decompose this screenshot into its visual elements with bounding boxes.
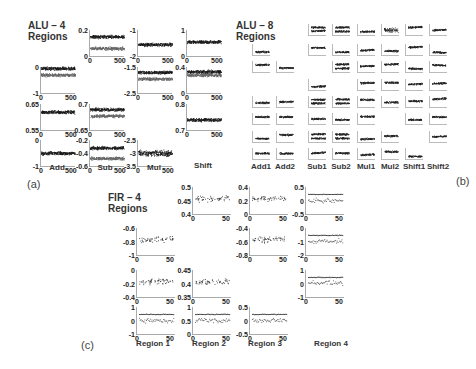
axis-tick-label: 0.35: [177, 294, 191, 301]
scatter-subplot: [357, 96, 375, 108]
axis-tick-label: -2.5: [124, 90, 136, 97]
column-label: Shift1: [401, 162, 427, 171]
scatter-subplot: [252, 96, 270, 108]
panel-b-label: (b): [456, 175, 469, 187]
scatter-subplot: [429, 61, 447, 73]
scatter-subplot: [305, 270, 344, 298]
scatter-subplot: [332, 24, 350, 36]
axis-tick-label: -0.5: [292, 211, 304, 218]
axis-tick-label: 1: [181, 27, 185, 34]
scatter-subplot: [308, 113, 326, 125]
axis-tick-label: 0.65: [74, 127, 88, 134]
axis-tick-label: -0.2: [76, 137, 88, 144]
scatter-subplot: [308, 96, 326, 108]
axis-tick-label: 0.5: [181, 184, 191, 191]
scatter-subplot: [276, 131, 294, 143]
axis-tick-label: 50: [335, 215, 343, 222]
column-label: Mul2: [377, 162, 403, 171]
column-label: Region 4: [306, 339, 356, 348]
scatter-subplot: [192, 187, 231, 215]
axis-tick-label: 0.4: [175, 64, 185, 71]
axis-tick-label: 0: [244, 318, 248, 325]
column-label: Add: [40, 163, 74, 172]
scatter-subplot: [405, 79, 423, 91]
axis-tick-label: 0: [88, 57, 92, 64]
axis-tick-label: 50: [166, 256, 174, 263]
axis-tick-label: 0: [185, 131, 189, 138]
axis-tick-label: 0.7: [175, 127, 185, 134]
axis-tick-label: 500: [211, 94, 223, 101]
scatter-subplot: [136, 270, 175, 298]
panel-c-title: FIR – 4 Regions: [108, 192, 147, 214]
scatter-subplot: [381, 24, 399, 36]
axis-tick-label: -1.5: [124, 64, 136, 71]
scatter-subplot: [405, 96, 423, 108]
scatter-subplot: [381, 44, 399, 56]
axis-tick-label: -1: [298, 239, 304, 246]
axis-tick-label: 0.55: [25, 127, 39, 134]
panel-b-title: ALU – 8 Regions: [236, 20, 275, 42]
scatter-subplot: [305, 187, 344, 215]
scatter-subplot: [332, 131, 350, 143]
scatter-subplot: [276, 61, 294, 73]
scatter-subplot: [305, 228, 344, 256]
scatter-subplot: [429, 96, 447, 108]
axis-tick-label: 0.4: [181, 281, 191, 288]
scatter-subplot: [357, 131, 375, 143]
axis-tick-label: 0: [39, 94, 43, 101]
axis-tick-label: -0.8: [236, 252, 248, 259]
axis-tick-label: 50: [335, 256, 343, 263]
scatter-subplot: [186, 30, 221, 57]
axis-tick-label: 0.7: [78, 101, 88, 108]
axis-tick-label: -0.5: [236, 331, 248, 338]
scatter-subplot: [192, 307, 231, 335]
scatter-subplot: [308, 148, 326, 160]
scatter-subplot: [252, 148, 270, 160]
scatter-subplot: [357, 113, 375, 125]
axis-tick-label: -0.2: [123, 281, 135, 288]
axis-tick-label: 1: [300, 267, 304, 274]
scatter-subplot: [186, 104, 221, 131]
axis-tick-label: -2.5: [124, 137, 136, 144]
scatter-subplot: [136, 307, 175, 335]
scatter-subplot: [381, 79, 399, 91]
scatter-subplot: [405, 148, 423, 160]
column-label: Sub: [88, 163, 122, 172]
axis-tick-label: 0.4: [238, 184, 248, 191]
column-label: Region 3: [240, 339, 290, 348]
scatter-subplot: [381, 148, 399, 160]
column-label: Mul1: [353, 162, 379, 171]
axis-tick-label: 50: [279, 215, 287, 222]
axis-tick-label: 0: [131, 267, 135, 274]
scatter-subplot: [357, 61, 375, 73]
scatter-subplot: [405, 113, 423, 125]
scatter-subplot: [332, 96, 350, 108]
axis-tick-label: 0: [35, 137, 39, 144]
scatter-subplot: [308, 131, 326, 143]
scatter-subplot: [308, 79, 326, 91]
axis-tick-label: 0: [35, 64, 39, 71]
axis-tick-label: 1: [187, 304, 191, 311]
axis-tick-label: 0.45: [177, 198, 191, 205]
axis-tick-label: 0: [300, 281, 304, 288]
axis-tick-label: -3: [130, 150, 136, 157]
scatter-subplot: [405, 61, 423, 73]
axis-tick-label: -0.6: [123, 225, 135, 232]
column-label: Sub1: [304, 162, 330, 171]
scatter-subplot: [137, 67, 172, 94]
axis-tick-label: 0: [304, 256, 308, 263]
axis-tick-label: 0: [300, 198, 304, 205]
axis-tick-label: 0.65: [25, 101, 39, 108]
axis-tick-label: 0: [185, 57, 189, 64]
axis-tick-label: 0: [191, 215, 195, 222]
scatter-subplot: [332, 148, 350, 160]
axis-tick-label: 50: [166, 298, 174, 305]
scatter-subplot: [381, 131, 399, 143]
axis-tick-label: 50: [222, 215, 230, 222]
scatter-subplot: [429, 79, 447, 91]
scatter-subplot: [429, 44, 447, 56]
scatter-subplot: [308, 24, 326, 36]
panel-a-label: (a): [27, 178, 40, 190]
axis-tick-label: 500: [65, 94, 77, 101]
scatter-subplot: [276, 113, 294, 125]
